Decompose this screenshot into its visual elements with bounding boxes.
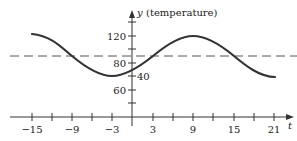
x-tick-label: 3 <box>150 124 156 135</box>
x-tick-label: 21 <box>268 124 281 135</box>
x-axis-title: t <box>288 120 293 131</box>
x-tick-label: −3 <box>105 124 120 135</box>
y-tick-label: 40 <box>137 71 150 82</box>
x-tick-label: −9 <box>65 124 80 135</box>
x-tick-label: −15 <box>21 124 42 135</box>
chart: −15 −9 −3 3 9 15 21 120 80 40 60 y (temp… <box>0 0 297 141</box>
y-tick-label: 60 <box>113 85 126 96</box>
y-tick-label: 120 <box>107 31 126 42</box>
y-axis-var-label: y <box>136 7 143 18</box>
y-axis-arrow-icon <box>129 10 135 18</box>
x-tick-label: 15 <box>228 124 241 135</box>
y-tick-label: 80 <box>113 58 126 69</box>
y-axis-title: (temperature) <box>146 7 218 18</box>
x-tick-label: 9 <box>190 124 196 135</box>
